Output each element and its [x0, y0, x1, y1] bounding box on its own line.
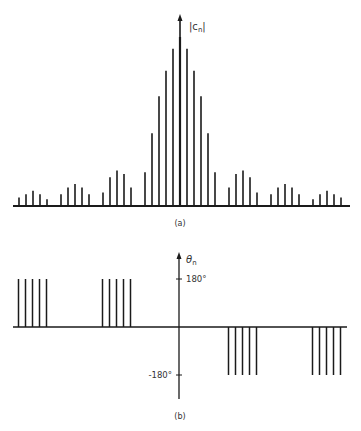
panel-a-stems	[19, 37, 341, 206]
panel-a-ylabel: |cn|	[189, 21, 206, 34]
figure: |cn| (a) θn 180° -180° (b)	[0, 0, 361, 431]
panel-b-caption: (b)	[174, 412, 185, 421]
panel-b-tick-label-180: 180°	[186, 274, 206, 284]
panel-b-y-axis-arrow-icon	[177, 252, 182, 259]
panel-a-caption: (a)	[174, 219, 185, 228]
panel-b-tick-label-neg180: -180°	[148, 370, 172, 380]
panel-a-magnitude-spectrum: |cn| (a)	[13, 14, 350, 228]
panel-a-y-axis-arrow-icon	[178, 14, 183, 21]
panel-b-phase-spectrum: θn 180° -180° (b)	[13, 252, 347, 421]
panel-b-ylabel: θn	[186, 254, 197, 267]
